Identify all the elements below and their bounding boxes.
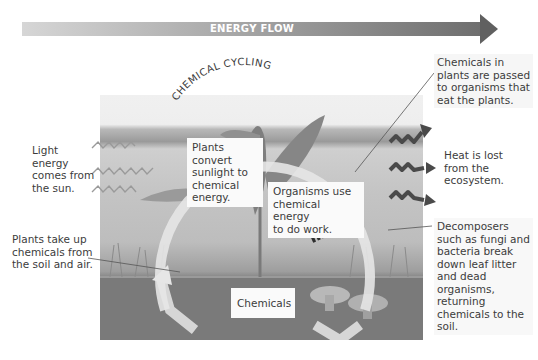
cycle-title: CHEMICAL CYCLING (170, 56, 273, 102)
label-line: bacteria break (437, 245, 530, 258)
label-line: energy (32, 157, 94, 170)
box-line: Plants (192, 141, 258, 154)
label-line: to organisms that (437, 81, 530, 94)
label-line: chemicals from (12, 246, 93, 259)
label-line: Decomposers (437, 220, 530, 233)
callout-line-plants-take-up (88, 258, 180, 272)
label-line: and dead (437, 270, 530, 283)
label-line: such as fungi and (437, 233, 530, 246)
label-line: returning (437, 295, 530, 308)
chemicals-passed-label: Chemicals in plants are passed to organi… (434, 54, 533, 108)
light-energy-label: Light energy comes from the sun. (32, 144, 94, 194)
heat-lost-label: Heat is lost from the ecosystem. (444, 149, 504, 187)
label-line: plants are passed (437, 69, 530, 82)
label-line: eat the plants. (437, 94, 530, 107)
label-line: Chemicals in (437, 56, 530, 69)
label-line: Heat is lost (444, 149, 504, 162)
callout-line-chemicals-passed (355, 73, 434, 172)
label-line: ecosystem. (444, 174, 504, 187)
heat-arrow-icon (390, 132, 424, 200)
box-line: Organisms use (273, 185, 359, 198)
box-line: sunlight to (192, 166, 258, 179)
plants-convert-box: Plants convert sunlight to chemical ener… (187, 138, 263, 207)
chemicals-box: Chemicals (231, 288, 295, 318)
label-line: from the (444, 162, 504, 175)
label-line: chemicals to the (437, 308, 530, 321)
label-line: Plants take up (12, 233, 93, 246)
light-arrow-icon (92, 142, 153, 192)
organisms-use-box: Organisms use chemical energy to do work… (268, 182, 364, 238)
plants-take-up-label: Plants take up chemicals from the soil a… (12, 233, 93, 271)
label-line: comes from (32, 169, 94, 182)
label-line: down leaf litter (437, 258, 530, 271)
label-line: soil. (437, 320, 530, 333)
label-line: Light (32, 144, 94, 157)
label-line: organisms, (437, 283, 530, 296)
box-line: energy. (192, 191, 258, 204)
label-line: the sun. (32, 182, 94, 195)
decomposers-label: Decomposers such as fungi and bacteria b… (434, 218, 533, 335)
box-line: chemical energy (273, 198, 359, 223)
box-line: convert (192, 154, 258, 167)
box-line: chemical (192, 179, 258, 192)
box-line: to do work. (273, 223, 359, 236)
callout-line-decomposers (388, 226, 432, 230)
label-line: the soil and air. (12, 258, 93, 271)
